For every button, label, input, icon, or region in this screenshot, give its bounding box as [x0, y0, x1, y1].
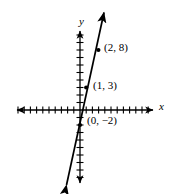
point-marker-2-8: [96, 48, 100, 52]
point-marker-1-3: [84, 85, 88, 89]
y-axis: [77, 31, 84, 183]
point-marker-0-neg2: [78, 123, 82, 127]
point-label-2-8: (2, 8): [104, 42, 128, 53]
graph-figure: (2, 8) (1, 3) (0, −2) x y: [0, 0, 169, 194]
plotted-line: [67, 13, 105, 186]
point-label-0-neg2: (0, −2): [87, 115, 117, 126]
x-axis: [17, 107, 153, 114]
point-label-1-3: (1, 3): [93, 80, 117, 91]
coordinate-plane-svg: [0, 0, 169, 194]
y-axis-label: y: [79, 16, 84, 27]
x-axis-label: x: [159, 101, 164, 112]
line-segment-y-equals-5x-minus-2: [67, 13, 105, 186]
